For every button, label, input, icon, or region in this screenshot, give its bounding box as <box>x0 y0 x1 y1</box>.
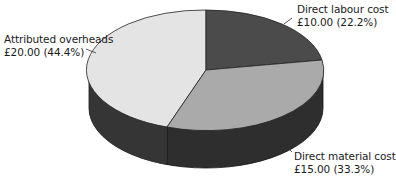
label-attributed-overheads: Attributed overheads £20.00 (44.4%) <box>4 33 113 59</box>
pie-top <box>86 10 323 131</box>
label-value: £15.00 (33.3%) <box>294 163 396 176</box>
leader-line-labour <box>284 18 292 24</box>
label-direct-labour: Direct labour cost £10.00 (22.2%) <box>297 3 389 29</box>
label-value: £10.00 (22.2%) <box>297 16 389 29</box>
label-value: £20.00 (44.4%) <box>4 46 113 59</box>
label-name: Attributed overheads <box>4 33 113 46</box>
label-name: Direct labour cost <box>297 3 389 16</box>
label-name: Direct material cost <box>294 150 396 163</box>
label-direct-material: Direct material cost £15.00 (33.3%) <box>294 150 396 176</box>
